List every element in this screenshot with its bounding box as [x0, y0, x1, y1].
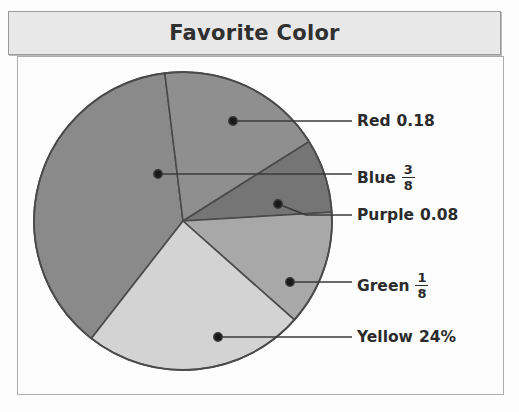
callout-name-purple: Purple: [357, 206, 414, 224]
callout-label-red: Red 0.18: [357, 112, 435, 130]
callout-value-yellow: 24%: [419, 328, 456, 346]
callout-label-green: Green 1 8: [357, 271, 428, 300]
fraction-numerator-green: 1: [415, 271, 428, 285]
callout-label-yellow: Yellow 24%: [357, 328, 456, 346]
fraction-denominator-green: 8: [415, 285, 428, 300]
callout-name-blue: Blue: [357, 169, 396, 187]
callout-value-blue-fraction: 3 8: [402, 163, 415, 192]
callout-value-green-fraction: 1 8: [415, 271, 428, 300]
page-title: Favorite Color: [169, 21, 340, 45]
callout-value-red: 0.18: [397, 112, 435, 130]
callout-name-red: Red: [357, 112, 391, 130]
fraction-numerator-blue: 3: [402, 163, 415, 177]
callout-value-purple: 0.08: [420, 206, 458, 224]
chart-title-banner: Favorite Color: [8, 11, 501, 55]
callout-name-green: Green: [357, 277, 409, 295]
callout-label-blue: Blue 3 8: [357, 163, 415, 192]
callout-label-purple: Purple 0.08: [357, 206, 458, 224]
pie-chart-figure: Favorite Color: [0, 0, 519, 412]
callout-name-yellow: Yellow: [357, 328, 413, 346]
fraction-denominator-blue: 8: [402, 177, 415, 192]
